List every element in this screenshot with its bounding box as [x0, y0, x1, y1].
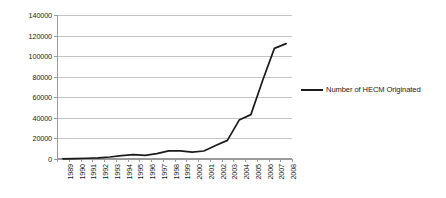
x-tick-mark — [139, 159, 140, 162]
x-tick-mark — [233, 159, 234, 162]
series-layer — [57, 15, 292, 159]
x-tick-mark — [222, 159, 223, 162]
x-tick-label: 1990 — [78, 164, 87, 180]
x-tick-label: 1995 — [136, 164, 145, 180]
x-tick-mark — [280, 159, 281, 162]
x-tick-label: 2003 — [230, 164, 239, 180]
x-tick-label: 1996 — [148, 164, 157, 180]
x-tick-mark — [81, 159, 82, 162]
series-line-number-of-hecm-originated — [63, 44, 286, 159]
x-tick-mark — [151, 159, 152, 162]
y-tick-label: 60000 — [2, 93, 52, 102]
legend-label: Number of HECM Originated — [326, 85, 421, 94]
x-tick-mark — [116, 159, 117, 162]
y-tick-label: 100000 — [2, 52, 52, 61]
x-tick-label: 2008 — [289, 164, 298, 180]
y-tick-label: 20000 — [2, 134, 52, 143]
y-tick-label: 0 — [2, 155, 52, 164]
x-tick-mark — [128, 159, 129, 162]
x-tick-label: 1999 — [183, 164, 192, 180]
x-tick-mark — [292, 159, 293, 162]
y-tick-label: 40000 — [2, 113, 52, 122]
x-tick-mark — [245, 159, 246, 162]
x-tick-label: 1998 — [172, 164, 181, 180]
x-tick-label: 2007 — [277, 164, 286, 180]
x-tick-mark — [269, 159, 270, 162]
x-tick-label: 2005 — [254, 164, 263, 180]
x-tick-mark — [57, 159, 58, 162]
x-tick-label: 2001 — [207, 164, 216, 180]
x-tick-label: 2004 — [242, 164, 251, 180]
x-tick-mark — [104, 159, 105, 162]
x-tick-mark — [186, 159, 187, 162]
x-tick-label: 2006 — [266, 164, 275, 180]
chart-legend: Number of HECM Originated — [301, 85, 421, 94]
y-tick-label: 80000 — [2, 72, 52, 81]
legend-line-swatch — [301, 89, 323, 91]
x-tick-mark — [175, 159, 176, 162]
x-tick-label: 1994 — [125, 164, 134, 180]
x-tick-mark — [210, 159, 211, 162]
x-tick-mark — [257, 159, 258, 162]
x-tick-label: 2000 — [195, 164, 204, 180]
x-tick-mark — [198, 159, 199, 162]
x-tick-mark — [163, 159, 164, 162]
x-tick-label: 2002 — [219, 164, 228, 180]
x-tick-label: 1989 — [66, 164, 75, 180]
x-tick-mark — [92, 159, 93, 162]
x-tick-label: 1992 — [101, 164, 110, 180]
y-tick-label: 140000 — [2, 11, 52, 20]
chart-container: 020000400006000080000100000120000140000 … — [0, 0, 446, 198]
y-tick-label: 120000 — [2, 31, 52, 40]
x-tick-label: 1997 — [160, 164, 169, 180]
x-tick-label: 1993 — [113, 164, 122, 180]
x-tick-label: 1991 — [89, 164, 98, 180]
